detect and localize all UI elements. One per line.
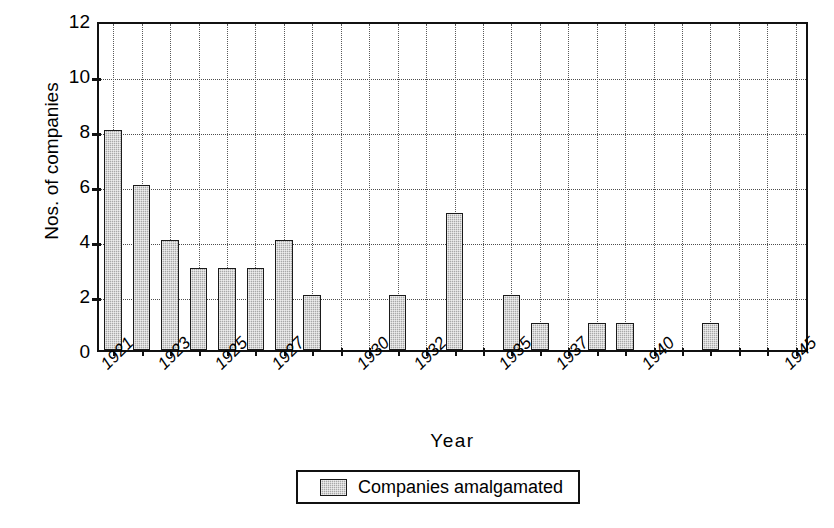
y-tick-mark — [92, 243, 101, 246]
legend-swatch-icon — [320, 479, 347, 496]
gridline-vertical — [654, 24, 655, 350]
y-tick-label: 10 — [54, 67, 90, 86]
bar — [303, 295, 321, 350]
legend-label: Companies amalgamated — [358, 477, 563, 498]
chart-legend: Companies amalgamated — [296, 470, 580, 504]
bar — [446, 213, 464, 351]
gridline-vertical — [739, 24, 740, 350]
y-tick-label: 6 — [54, 177, 90, 196]
gridline-vertical — [710, 24, 711, 350]
bar — [247, 268, 265, 351]
y-tick-label: 0 — [54, 342, 90, 361]
y-tick-mark — [92, 298, 101, 301]
gridline-vertical — [767, 24, 768, 350]
gridline-horizontal — [99, 189, 806, 190]
bar — [161, 240, 179, 350]
bar-chart: Nos. of companies 024681012 192119231925… — [0, 0, 834, 528]
y-tick-mark — [92, 78, 101, 81]
gridline-vertical — [483, 24, 484, 350]
bar — [275, 240, 293, 350]
gridline-vertical — [568, 24, 569, 350]
gridline-vertical — [796, 24, 797, 350]
gridline-vertical — [426, 24, 427, 350]
gridline-vertical — [625, 24, 626, 350]
bar — [616, 323, 634, 351]
gridline-vertical — [341, 24, 342, 350]
y-tick-mark — [92, 133, 101, 136]
bar — [133, 185, 151, 350]
bar — [702, 323, 720, 351]
bar — [104, 130, 122, 350]
y-tick-mark — [92, 188, 101, 191]
plot-inner — [99, 24, 806, 350]
gridline-vertical — [682, 24, 683, 350]
x-axis-title: Year — [97, 430, 808, 452]
gridline-vertical — [597, 24, 598, 350]
y-tick-label: 8 — [54, 122, 90, 141]
plot-area — [97, 22, 808, 352]
bar — [190, 268, 208, 351]
y-tick-label: 2 — [54, 287, 90, 306]
gridline-horizontal — [99, 134, 806, 135]
gridline-horizontal — [99, 79, 806, 80]
y-axis-tick-labels: 024681012 — [50, 0, 90, 528]
x-axis-tick-labels: 1921192319251927193019321935193719401945 — [97, 352, 808, 422]
y-tick-label: 4 — [54, 232, 90, 251]
bar — [389, 295, 407, 350]
y-tick-label: 12 — [54, 12, 90, 31]
gridline-vertical — [540, 24, 541, 350]
gridline-vertical — [369, 24, 370, 350]
